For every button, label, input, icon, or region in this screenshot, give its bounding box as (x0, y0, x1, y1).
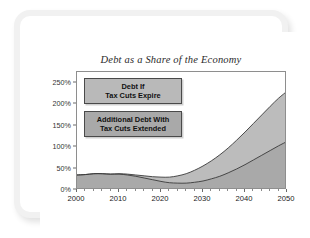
chart-card-frame: Debt as a Share of the Economy 0%50%100%… (14, 10, 288, 218)
x-axis-minor-tick (168, 189, 169, 191)
y-axis-tick-label: 100% (53, 142, 71, 151)
x-axis-tick-mark (286, 189, 287, 192)
x-axis-minor-tick (210, 189, 211, 191)
x-axis-tick-mark (76, 189, 77, 192)
plot-area: 0%50%100%150%200%250% 200020102020203020… (76, 71, 286, 189)
x-axis-minor-tick (152, 189, 153, 191)
x-axis-tick-label: 2000 (68, 194, 85, 203)
chart-title: Debt as a Share of the Economy (40, 54, 302, 65)
x-axis-tick-label: 2030 (194, 194, 211, 203)
y-axis-tick-mark (73, 124, 76, 125)
x-axis-tick-mark (244, 189, 245, 192)
x-axis-minor-tick (227, 189, 228, 191)
x-axis-minor-tick (135, 189, 136, 191)
x-axis-tick-label: 2010 (110, 194, 127, 203)
screenshot-root: Debt as a Share of the Economy 0%50%100%… (0, 0, 310, 238)
x-axis-minor-tick (126, 189, 127, 191)
legend-lower-line1: Additional Debt With (87, 115, 179, 124)
x-axis-minor-tick (236, 189, 237, 191)
x-axis-tick-label: 2040 (236, 194, 253, 203)
x-axis-minor-tick (219, 189, 220, 191)
x-axis-tick-mark (118, 189, 119, 192)
x-axis-minor-tick (101, 189, 102, 191)
x-axis-tick-label: 2050 (278, 194, 295, 203)
y-axis-tick-mark (73, 103, 76, 104)
y-axis-tick-label: 250% (53, 77, 71, 86)
y-axis-tick-mark (73, 146, 76, 147)
x-axis-minor-tick (185, 189, 186, 191)
x-axis-minor-tick (261, 189, 262, 191)
chart-legend: Debt If Tax Cuts Expire Additional Debt … (84, 78, 182, 137)
x-axis-minor-tick (177, 189, 178, 191)
legend-item-additional-debt-tax-cuts-extended: Additional Debt With Tax Cuts Extended (84, 111, 182, 137)
x-axis-minor-tick (278, 189, 279, 191)
y-axis-tick-mark (73, 167, 76, 168)
y-axis-tick-mark (73, 81, 76, 82)
x-axis-minor-tick (110, 189, 111, 191)
legend-upper-line1: Debt If (87, 82, 179, 91)
x-axis-minor-tick (269, 189, 270, 191)
y-axis-tick-label: 200% (53, 99, 71, 108)
x-axis-minor-tick (252, 189, 253, 191)
legend-lower-line2: Tax Cuts Extended (87, 124, 179, 133)
x-axis-tick-label: 2020 (152, 194, 169, 203)
chart-card-inner: Debt as a Share of the Economy 0%50%100%… (40, 32, 302, 228)
x-axis-minor-tick (194, 189, 195, 191)
y-axis-tick-label: 150% (53, 120, 71, 129)
x-axis-tick-mark (160, 189, 161, 192)
x-axis-minor-tick (143, 189, 144, 191)
x-axis-minor-tick (84, 189, 85, 191)
legend-upper-line2: Tax Cuts Expire (87, 91, 179, 100)
y-axis-tick-label: 0% (61, 185, 71, 194)
y-axis-tick-label: 50% (57, 163, 71, 172)
x-axis-minor-tick (93, 189, 94, 191)
legend-item-debt-if-tax-cuts-expire: Debt If Tax Cuts Expire (84, 78, 182, 104)
x-axis-tick-mark (202, 189, 203, 192)
